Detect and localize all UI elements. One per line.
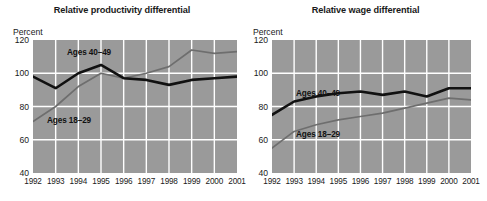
y-axis-tick-label: 100 (3, 68, 29, 78)
plot-area-productivity (33, 40, 237, 173)
x-axis-tick-label: 1992 (24, 177, 41, 186)
series-annotation-ages-40-49-wage: Ages 40–49 (296, 89, 340, 98)
y-axis-tick-label: 60 (3, 135, 29, 145)
x-axis-tick-label: 1993 (47, 177, 64, 186)
plot-svg-wage (272, 40, 471, 173)
x-axis-tick-label: 2000 (440, 177, 457, 186)
x-axis-tick-label: 1997 (374, 177, 391, 186)
x-axis-tick-label: 1996 (352, 177, 369, 186)
x-axis-tick-label: 1994 (70, 177, 87, 186)
x-axis-tick-label: 1998 (396, 177, 413, 186)
panel-title-productivity: Relative productivity differential (0, 5, 244, 15)
x-axis-tick-label: 2001 (462, 177, 479, 186)
two-panel-line-chart-figure: Relative productivity differential Perce… (0, 0, 487, 201)
data-series-line-ages-18-29 (272, 98, 471, 148)
series-annotation-ages-40-49-productivity: Ages 40–49 (67, 48, 111, 57)
x-axis-tick-label: 1999 (418, 177, 435, 186)
series-annotation-ages-18-29-wage: Ages 18–29 (296, 130, 340, 139)
panel-title-wage: Relative wage differential (244, 5, 487, 15)
x-axis-tick-label: 1994 (308, 177, 325, 186)
y-axis-tick-label: 60 (242, 135, 268, 145)
x-axis-tick-label: 2001 (228, 177, 245, 186)
x-axis-tick-label: 1997 (138, 177, 155, 186)
x-axis-tick-label: 1998 (160, 177, 177, 186)
y-axis-tick-label: 120 (242, 35, 268, 45)
y-axis-tick-label: 120 (3, 35, 29, 45)
x-axis-tick-label: 1995 (330, 177, 347, 186)
series-annotation-ages-18-29-productivity: Ages 18–29 (47, 116, 91, 125)
y-axis-tick-label: 100 (242, 68, 268, 78)
x-axis-tick-label: 2000 (206, 177, 223, 186)
x-axis-tick-label: 1995 (92, 177, 109, 186)
plot-area-wage (272, 40, 471, 173)
x-axis-tick-label: 1996 (115, 177, 132, 186)
y-axis-tick-label: 80 (3, 102, 29, 112)
plot-svg-productivity (33, 40, 237, 173)
x-axis-tick-label: 1999 (183, 177, 200, 186)
chart-panel-productivity: Relative productivity differential Perce… (0, 0, 244, 201)
x-axis-tick-label: 1992 (263, 177, 280, 186)
x-axis-tick-label: 1993 (285, 177, 302, 186)
y-axis-tick-label: 80 (242, 102, 268, 112)
data-series-line-ages-18-29 (33, 50, 237, 121)
